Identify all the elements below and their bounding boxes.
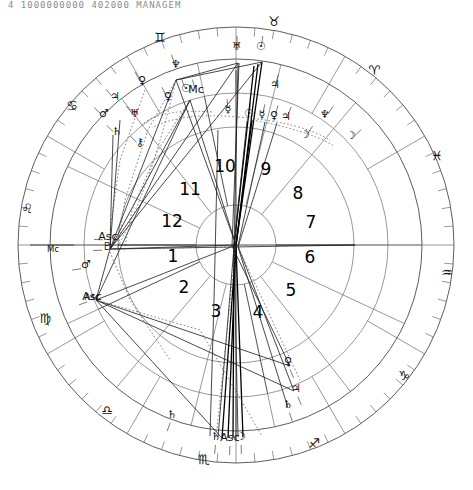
planet-stem: [290, 413, 293, 422]
degree-tick: [397, 338, 425, 354]
house-number-6: 6: [305, 247, 316, 267]
degree-tick: [180, 447, 182, 456]
degree-tick: [25, 299, 34, 301]
degree-tick: [438, 299, 447, 301]
degree-tick: [329, 56, 345, 84]
degree-tick: [21, 281, 30, 283]
degree-tick: [31, 170, 39, 173]
sign-Virgo: ♍: [39, 311, 51, 326]
degree-tick: [307, 40, 310, 48]
sign-Cancer: ♋: [66, 98, 78, 113]
sign-Gemini: ♊: [154, 30, 166, 45]
house-number-2: 2: [179, 277, 190, 297]
degree-tick: [180, 34, 182, 43]
degree-tick: [38, 333, 46, 337]
house-cusp-outer: [374, 309, 405, 323]
house-number-7: 7: [306, 212, 317, 232]
degree-tick: [397, 136, 425, 152]
degree-tick: [47, 338, 75, 354]
planet-Saturn-3: ♄: [167, 408, 177, 421]
planet-Mars: ♂: [99, 107, 109, 120]
planet-Moon-2: ☽: [300, 128, 310, 141]
astrology-chart-wheel: 4 1000000000 402000 MANAGEM: [0, 0, 473, 490]
sign-Taurus: ♉: [268, 14, 280, 29]
house-cusp-outer: [334, 103, 356, 129]
degree-tick: [82, 393, 88, 399]
house-number-8: 8: [293, 183, 304, 203]
house-cusp-outer: [67, 166, 98, 180]
planet-Neptune-2: ♆: [320, 108, 330, 121]
planet-Mercury-2: ☿: [225, 103, 232, 116]
chart-canvas: ♈♉♊♋♌♍♎♏♐♑♒♓ ☉♅♆♀♃♂♃☽♆♀☉Mc♄♅⚷☉☿♀♃☿☽♇Asc♂…: [0, 0, 473, 490]
degree-tick: [111, 66, 116, 73]
planet-Venus: ♀: [138, 74, 146, 87]
sign-divider: [143, 84, 160, 113]
sign-Pisces: ♓: [431, 148, 443, 163]
degree-tick: [356, 416, 361, 423]
house-number-3: 3: [211, 301, 222, 321]
planet-stem: [167, 423, 170, 431]
house-number-1: 1: [168, 246, 179, 266]
planet-Moon-3: ☽: [236, 430, 246, 443]
degree-tick: [254, 453, 255, 462]
degree-tick: [442, 207, 451, 209]
degree-tick: [432, 170, 440, 173]
planet-glyphs: ☉♅♆♀♃♂♃☽♆♀☉Mc♄♅⚷☉☿♀♃☿☽♇Asc♂Asc♀♃♄Asc☽♄♄: [81, 40, 356, 444]
degree-tick: [425, 333, 433, 337]
planet-Moon: ☽: [346, 129, 356, 142]
degree-tick: [290, 447, 292, 456]
degree-tick: [356, 66, 361, 73]
sign-Scorpio: ♏: [198, 452, 210, 467]
planet-Sun: ☉: [256, 40, 266, 53]
degree-tick: [290, 34, 292, 43]
house-number-10: 10: [214, 156, 236, 176]
degree-tick: [47, 136, 75, 152]
degree-tick: [432, 316, 440, 319]
degree-tick: [19, 226, 28, 227]
axis-markers: McAsc: [30, 244, 100, 302]
sign-divider: [368, 321, 397, 338]
degree-tick: [444, 226, 453, 227]
planet-stem: [298, 397, 301, 405]
axis-Asc: Asc: [85, 292, 100, 302]
sign-Aries: ♈: [368, 63, 380, 78]
house-cusp-outer: [67, 309, 98, 323]
degree-tick: [127, 406, 143, 434]
sign-Leo: ♌: [21, 201, 33, 216]
sign-Capricorn: ♑: [398, 368, 410, 383]
sign-divider: [75, 321, 104, 338]
axis-MC: Mc: [47, 244, 59, 254]
planet-Jupiter-2: ♃: [270, 78, 280, 91]
planet-Jupiter-4: ♃: [291, 382, 301, 395]
planet-stem: [215, 445, 216, 454]
degree-tick: [396, 105, 403, 111]
planet-Ascendant: Asc: [98, 230, 117, 243]
degree-tick: [144, 47, 148, 55]
degree-tick: [254, 28, 255, 37]
house-number-12: 12: [161, 211, 183, 231]
degree-tick: [96, 78, 102, 85]
planet-Mars-2: ♂: [81, 258, 91, 271]
planet-Sun-3: ☉: [244, 107, 254, 120]
planet-Venus-2: ♀: [270, 109, 278, 122]
planet-Mercury: ☿: [259, 108, 266, 121]
planet-Venus: ♀: [164, 90, 172, 103]
degree-tick: [198, 30, 200, 39]
degree-tick: [217, 453, 218, 462]
planet-Neptune: ♆: [171, 58, 181, 71]
sign-divider: [312, 377, 329, 406]
planet-Uranus-2: ♅: [130, 107, 140, 120]
planet-Jupiter: ♃: [110, 90, 120, 103]
house-cusp: [138, 276, 210, 362]
degree-tick: [384, 91, 390, 97]
sign-Libra: ♎: [101, 403, 113, 418]
degree-tick: [384, 393, 390, 399]
planet-Uranus: ♅: [232, 40, 242, 53]
planet-Saturn: ♄: [112, 125, 122, 138]
degree-tick: [82, 91, 88, 97]
degree-tick: [370, 78, 376, 85]
house-cusp-outer: [268, 394, 275, 427]
planet-MC-marker: Mc: [188, 83, 204, 96]
degree-tick: [69, 379, 76, 385]
sign-divider: [368, 152, 397, 169]
